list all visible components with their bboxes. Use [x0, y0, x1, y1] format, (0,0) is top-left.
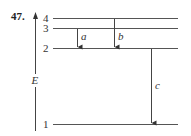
transition-label: c — [155, 79, 160, 91]
level-2: 2 — [43, 42, 178, 54]
level-label: 2 — [43, 42, 49, 54]
transition-label: b — [118, 30, 124, 42]
axis-arrow-icon — [33, 12, 38, 19]
level-label: 3 — [43, 22, 49, 34]
energy-axis: E — [30, 12, 41, 131]
transition-b: b — [115, 19, 125, 47]
level-3: 3 — [43, 22, 178, 34]
level-4: 4 — [43, 12, 178, 24]
transition-a: a — [78, 29, 88, 47]
level-label: 1 — [43, 118, 49, 130]
level-1: 1 — [43, 118, 178, 130]
problem-number: 47. — [11, 10, 25, 22]
axis-label: E — [31, 74, 39, 86]
energy-level-diagram: 47. E 4 3 2 1 a b c — [0, 0, 191, 136]
transition-label: a — [81, 30, 87, 42]
transition-c: c — [152, 49, 161, 123]
